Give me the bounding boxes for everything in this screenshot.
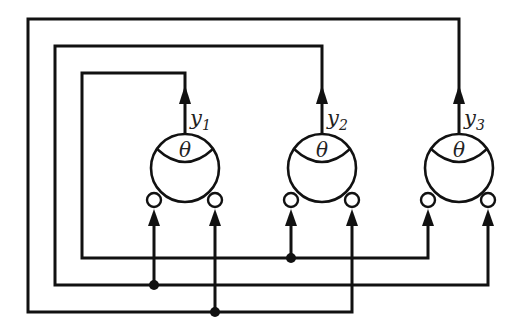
neuron-3: θ xyxy=(421,134,495,226)
input-arrow-icon xyxy=(422,209,434,226)
output-arrow-icon xyxy=(179,85,191,104)
input-arrow-icon xyxy=(482,209,494,226)
threshold-label: θ xyxy=(179,138,191,162)
feedback-wire-y2 xyxy=(55,46,488,285)
threshold-label: θ xyxy=(453,138,465,162)
feedback-wire-y1 xyxy=(82,73,428,258)
input-node-right xyxy=(481,193,495,207)
input-arrow-icon xyxy=(285,209,297,226)
output-arrow-icon xyxy=(453,85,465,104)
input-node-left xyxy=(284,193,298,207)
neuron-1: θ xyxy=(147,134,222,226)
input-node-right xyxy=(208,193,222,207)
junction-dot xyxy=(286,253,296,263)
input-node-left xyxy=(421,193,435,207)
input-arrow-icon xyxy=(209,209,221,226)
output-arrow-icon xyxy=(316,85,328,104)
threshold-label: θ xyxy=(316,138,328,162)
input-arrow-icon xyxy=(148,209,160,226)
input-node-left xyxy=(147,193,161,207)
junction-dot xyxy=(149,280,159,290)
feedback-wire-y3 xyxy=(28,19,459,312)
output-label-y3: y3 xyxy=(463,106,485,133)
neuron-2: θ xyxy=(284,134,359,226)
output-label-y1: y1 xyxy=(189,106,211,133)
recurrent-neural-network-diagram: y1 y2 y3 θ θ θ xyxy=(0,0,521,330)
input-node-right xyxy=(345,193,359,207)
input-arrow-icon xyxy=(346,209,358,226)
junction-dot xyxy=(210,307,220,317)
output-label-y2: y2 xyxy=(326,106,348,133)
